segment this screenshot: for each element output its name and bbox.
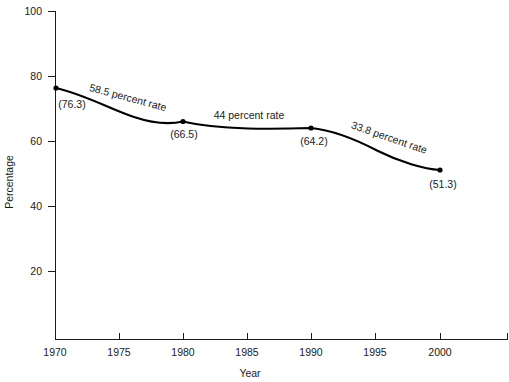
- data-point-2000[interactable]: [437, 167, 442, 172]
- data-point-1980[interactable]: [180, 119, 185, 124]
- y-tick-label-20: 20: [30, 265, 42, 277]
- chart-figure: 100 80 60 40 20 1970 1975 1980 1985 1990…: [0, 0, 509, 382]
- data-label-2000: (51.3): [429, 178, 456, 190]
- x-tick-label-1995: 1995: [363, 346, 387, 358]
- y-tick-label-80: 80: [30, 70, 42, 82]
- data-label-1990: (64.2): [300, 135, 327, 147]
- x-tick-label-1990: 1990: [299, 346, 323, 358]
- y-tick-label-100: 100: [24, 5, 42, 17]
- x-axis-title: Year: [239, 367, 261, 379]
- rate-annotation-1980-1990: 44 percent rate: [214, 109, 285, 121]
- rate-annotation-1970-1980: 58.5 percent rate: [88, 81, 168, 113]
- x-tick-label-1975: 1975: [107, 346, 131, 358]
- x-tick-label-1980: 1980: [171, 346, 195, 358]
- x-tick-label-1985: 1985: [235, 346, 259, 358]
- x-tick-label-1970: 1970: [43, 346, 67, 358]
- line-chart: 100 80 60 40 20 1970 1975 1980 1985 1990…: [0, 0, 509, 382]
- y-tick-label-60: 60: [30, 135, 42, 147]
- rate-annotation-1990-2000: 33.8 percent rate: [350, 119, 429, 156]
- y-axis-title: Percentage: [3, 155, 15, 209]
- data-label-1980: (66.5): [170, 128, 197, 140]
- y-tick-marks: [48, 12, 55, 272]
- x-tick-label-2000: 2000: [428, 346, 452, 358]
- y-tick-label-40: 40: [30, 200, 42, 212]
- data-point-1970[interactable]: [53, 85, 58, 90]
- data-label-1970: (76.3): [58, 98, 85, 110]
- data-point-1990[interactable]: [308, 125, 313, 130]
